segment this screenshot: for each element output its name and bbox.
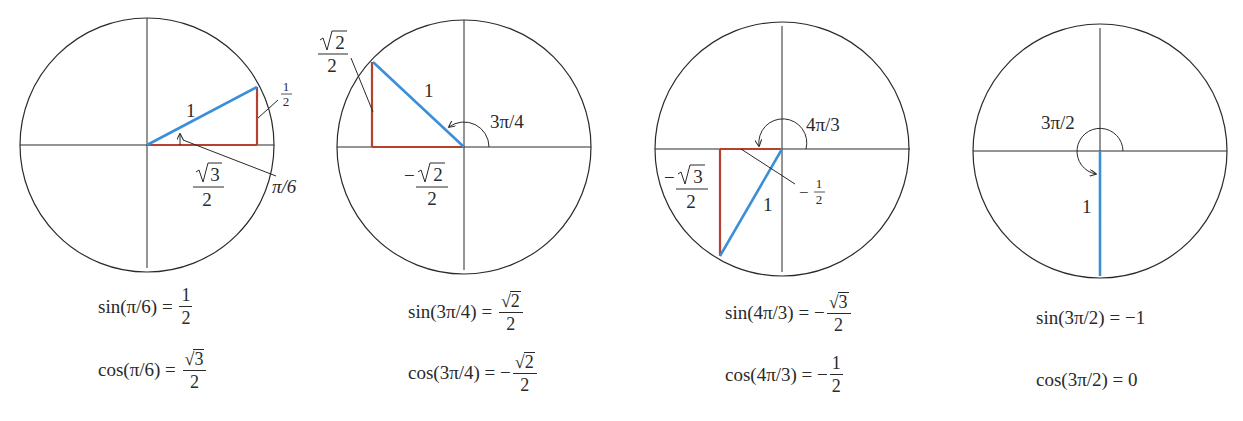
panel-3pi-over-2: 1 3π/2 bbox=[973, 24, 1227, 278]
equation-lhs: sin(4π/3) = bbox=[725, 302, 809, 324]
svg-text:1: 1 bbox=[283, 79, 290, 94]
hypotenuse bbox=[147, 87, 257, 145]
equation-fraction: √2 2 bbox=[513, 352, 537, 394]
svg-text:−: − bbox=[799, 183, 809, 202]
angle-arc bbox=[759, 119, 807, 149]
svg-text:2: 2 bbox=[327, 55, 337, 76]
equation-lhs: sin(π/6) = bbox=[98, 296, 173, 318]
opposite-label: − 3 2 bbox=[664, 165, 708, 212]
angle-label: 3π/4 bbox=[490, 111, 524, 132]
cos-equation-4pi-over-3: cos(4π/3) = − 1 2 bbox=[725, 354, 845, 395]
angle-label: π/6 bbox=[272, 176, 297, 197]
svg-text:2: 2 bbox=[427, 188, 437, 209]
opposite-label: 1 2 bbox=[281, 79, 292, 109]
equation-lhs: sin(3π/4) = bbox=[408, 301, 492, 323]
hypotenuse bbox=[373, 62, 464, 147]
equation-fraction: 1 2 bbox=[830, 354, 843, 395]
hypotenuse-label: 1 bbox=[186, 100, 196, 121]
equation-lhs: sin(3π/2) = bbox=[1036, 307, 1120, 329]
panel-pi-over-6: 1 π/6 1 2 3 2 bbox=[20, 18, 297, 272]
equation-lhs: cos(3π/2) = bbox=[1036, 369, 1123, 391]
adjacent-leader-line bbox=[741, 149, 795, 184]
svg-text:2: 2 bbox=[283, 94, 290, 109]
angle-label: 3π/2 bbox=[1041, 112, 1075, 133]
svg-text:1: 1 bbox=[816, 176, 823, 191]
hypotenuse-label: 1 bbox=[763, 194, 773, 215]
angle-arc bbox=[449, 122, 489, 147]
sin-equation-3pi-over-4: sin(3π/4) = √2 2 bbox=[408, 291, 525, 333]
sin-equation-4pi-over-3: sin(4π/3) = − √3 2 bbox=[725, 292, 853, 334]
equation-lhs: cos(π/6) = bbox=[98, 359, 176, 381]
sin-equation-3pi-over-2: sin(3π/2) = −1 bbox=[1036, 307, 1145, 329]
svg-text:2: 2 bbox=[202, 189, 212, 210]
svg-text:−: − bbox=[664, 167, 675, 188]
hypotenuse-label: 1 bbox=[424, 80, 434, 101]
adjacent-label: − 2 2 bbox=[404, 163, 448, 209]
panel-4pi-over-3: 1 4π/3 − 3 2 − 1 2 bbox=[655, 22, 910, 276]
sin-equation-pi-over-6: sin(π/6) = 1 2 bbox=[98, 286, 194, 327]
opposite-leader-line bbox=[351, 58, 373, 112]
svg-text:3: 3 bbox=[693, 166, 703, 187]
angle-label: 4π/3 bbox=[806, 114, 840, 135]
panel-3pi-over-4: 1 3π/4 2 2 − 2 2 bbox=[318, 20, 591, 274]
opposite-label: 2 2 bbox=[318, 31, 348, 76]
equation-value: 0 bbox=[1128, 369, 1138, 391]
hypotenuse-label: 1 bbox=[1082, 196, 1092, 217]
adjacent-label: 3 2 bbox=[193, 163, 224, 210]
svg-text:2: 2 bbox=[433, 164, 443, 185]
equation-fraction: √2 2 bbox=[499, 291, 523, 333]
cos-equation-pi-over-6: cos(π/6) = √3 2 bbox=[98, 349, 208, 391]
equation-lhs: cos(3π/4) = bbox=[408, 362, 495, 384]
adjacent-label: − 1 2 bbox=[799, 176, 825, 207]
svg-text:2: 2 bbox=[686, 191, 696, 212]
equation-lhs: cos(4π/3) = bbox=[725, 364, 812, 386]
opposite-leader-line bbox=[258, 100, 278, 118]
equation-fraction: 1 2 bbox=[179, 286, 192, 327]
equation-fraction: √3 2 bbox=[183, 349, 207, 391]
equation-value: −1 bbox=[1125, 307, 1145, 329]
svg-text:2: 2 bbox=[816, 192, 823, 207]
cos-equation-3pi-over-2: cos(3π/2) = 0 bbox=[1036, 369, 1138, 391]
svg-text:−: − bbox=[404, 165, 415, 186]
svg-text:3: 3 bbox=[210, 164, 220, 185]
svg-text:2: 2 bbox=[335, 32, 345, 53]
equation-fraction: √3 2 bbox=[827, 292, 851, 334]
hypotenuse bbox=[720, 149, 782, 256]
cos-equation-3pi-over-4: cos(3π/4) = − √2 2 bbox=[408, 352, 539, 394]
